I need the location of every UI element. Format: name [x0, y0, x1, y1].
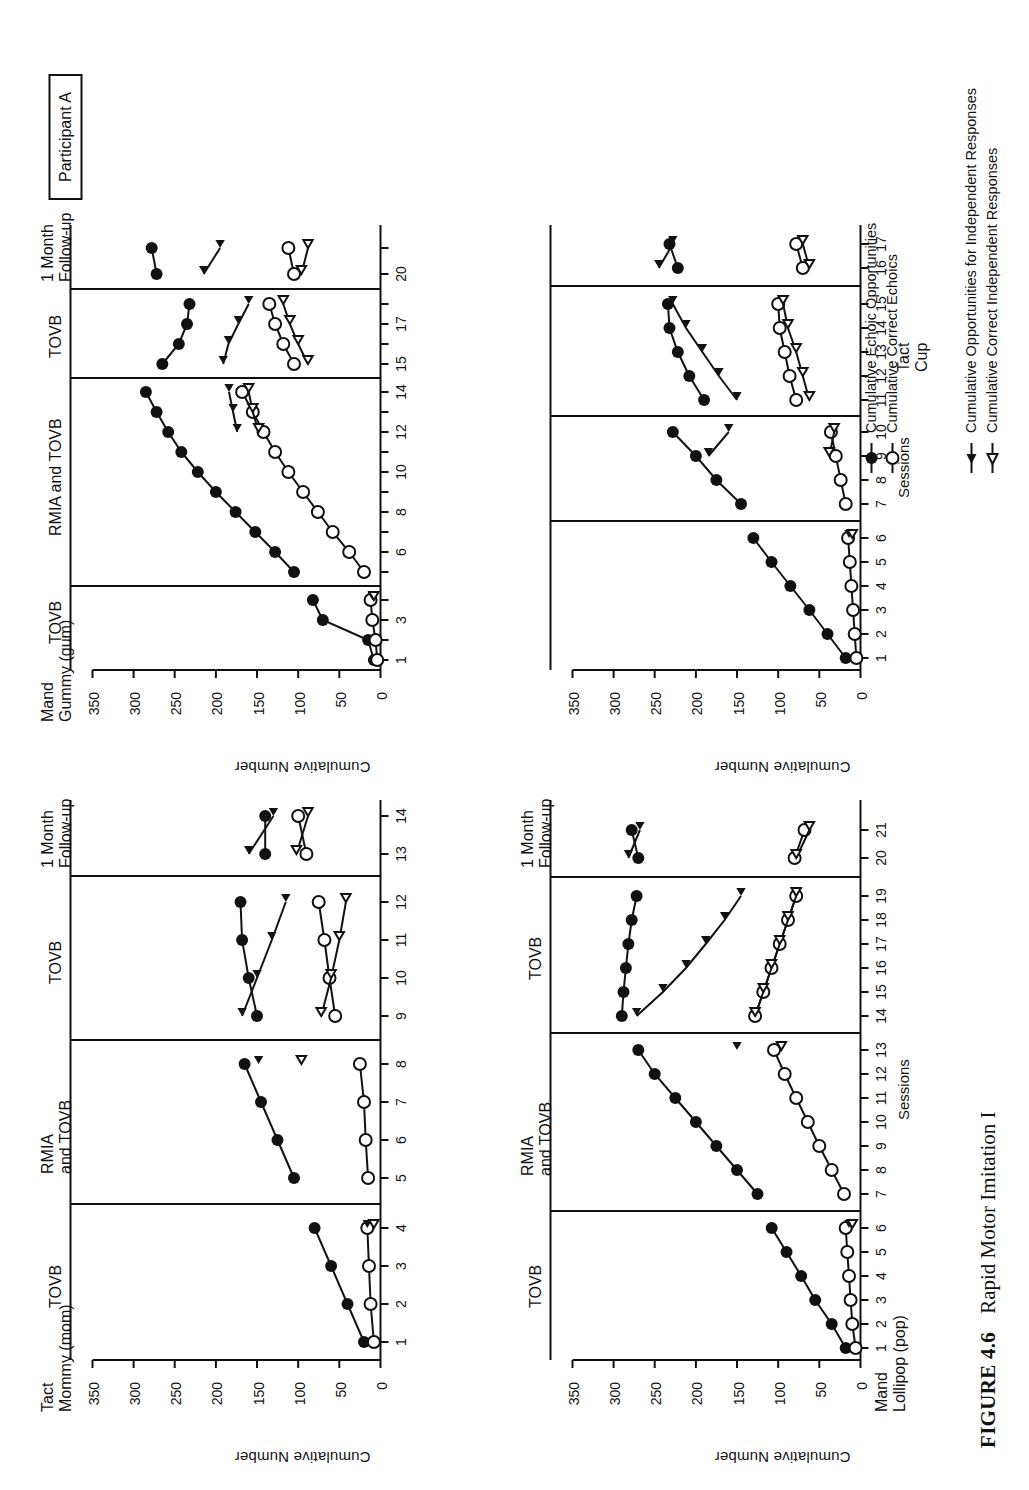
- y-tick-200: 200: [208, 1382, 224, 1428]
- y-tick-250: 250: [167, 1382, 183, 1428]
- phase-label-line1: 1 Month: [38, 213, 56, 282]
- x-tick: 1: [392, 650, 408, 670]
- panel-mand-lollipop: Mand Lollipop (pop) Cumulative Number: [520, 780, 940, 1420]
- panel-tact-mommy: Tact Mommy (mom) Cumulative Number: [40, 780, 440, 1420]
- figure-page: FIGURE 4.6Rapid Motor Imitation I Partic…: [0, 0, 1029, 1490]
- x-tick: 4: [392, 1216, 408, 1240]
- phase-label-tovb-1: TOVB: [526, 1265, 544, 1308]
- x-tick: 4: [872, 1266, 888, 1286]
- legend-item-independent-opportunities: Cumulative Opportunities for Independent…: [960, 88, 981, 475]
- x-tick: 20: [872, 846, 888, 870]
- x-tick: 14: [872, 1004, 888, 1028]
- y-tick-0: 0: [373, 1382, 389, 1428]
- y-tick-200: 200: [688, 692, 704, 738]
- phase-label-line1: RMIA: [518, 1102, 536, 1176]
- x-tick: 1: [872, 648, 888, 668]
- y-tick-100: 100: [771, 692, 787, 738]
- y-tick-250: 250: [167, 692, 183, 738]
- x-tick: 10: [392, 964, 408, 992]
- legend-echoic: Cumulative Echoic Opportunities Cumulati…: [860, 223, 902, 475]
- x-tick: 9: [872, 1136, 888, 1156]
- y-tick-250: 250: [647, 1382, 663, 1428]
- phase-label-tovb-1: TOVB: [46, 1265, 64, 1308]
- x-tick: 3: [392, 610, 408, 630]
- x-tick: 17: [872, 932, 888, 956]
- y-axis-label-mand-gummy: Cumulative Number: [234, 759, 370, 776]
- phase-label-line1: 1 Month: [38, 799, 56, 868]
- x-tick: 6: [872, 1218, 888, 1238]
- legend-label: Cumulative Correct Independent Responses: [981, 148, 1003, 433]
- plot-area-tact-mommy: [40, 780, 440, 1420]
- x-tick: 11: [392, 926, 408, 954]
- plot-area-mand-gummy: [40, 210, 440, 730]
- x-tick: 1: [872, 1338, 888, 1358]
- x-tick: 6: [392, 1128, 408, 1152]
- y-tick-150: 150: [730, 692, 746, 738]
- x-tick: 6: [392, 542, 408, 562]
- figure-caption-title: Rapid Motor Imitation I: [975, 1111, 999, 1313]
- phase-label-rmia-tovb: RMIA and TOVB: [38, 1100, 74, 1174]
- y-tick-350: 350: [85, 692, 101, 738]
- phase-label-line2: Follow-up: [536, 799, 554, 868]
- x-tick: 7: [872, 1184, 888, 1204]
- x-tick: 12: [872, 1062, 888, 1086]
- y-tick-100: 100: [291, 1382, 307, 1428]
- phase-label-tovb-2: TOVB: [526, 937, 544, 980]
- x-tick: 20: [392, 260, 408, 288]
- plot-area-mand-lollipop: [520, 780, 920, 1420]
- x-tick: 8: [872, 1160, 888, 1180]
- y-tick-50: 50: [812, 692, 828, 738]
- x-tick: 12: [392, 418, 408, 446]
- legend-item-correct-echoics: Cumulative Correct Echoics: [881, 223, 902, 475]
- legend-item-correct-independent: Cumulative Correct Independent Responses: [981, 88, 1002, 475]
- y-tick-50: 50: [332, 692, 348, 738]
- legend-label: Cumulative Echoic Opportunities: [860, 223, 882, 433]
- y-tick-100: 100: [291, 692, 307, 738]
- y-tick-200: 200: [208, 692, 224, 738]
- x-tick: 3: [872, 600, 888, 620]
- y-tick-250: 250: [647, 692, 663, 738]
- figure-caption-label: FIGURE 4.6: [975, 1332, 999, 1448]
- x-tick: 15: [392, 350, 408, 378]
- legend-label: Cumulative Opportunities for Independent…: [960, 88, 982, 433]
- x-tick: 12: [392, 888, 408, 916]
- y-axis-label-tact-cup: Cumulative Number: [714, 759, 850, 776]
- y-tick-150: 150: [730, 1382, 746, 1428]
- x-tick: 13: [872, 1038, 888, 1062]
- phase-label-rmia-tovb: RMIA and TOVB: [46, 418, 64, 536]
- y-tick-300: 300: [606, 692, 622, 738]
- phase-label-followup: 1 Month Follow-up: [38, 799, 74, 868]
- phase-label-followup: 1 Month Follow-up: [518, 799, 554, 868]
- legend-item-echoic-opportunities: Cumulative Echoic Opportunities: [860, 223, 881, 475]
- x-tick: 7: [392, 1090, 408, 1114]
- y-tick-200: 200: [688, 1382, 704, 1428]
- phase-label-line2: and TOVB: [536, 1102, 554, 1176]
- x-tick: 2: [872, 624, 888, 644]
- x-tick: 14: [392, 802, 408, 830]
- x-tick: 4: [872, 576, 888, 596]
- y-tick-0: 0: [373, 692, 389, 738]
- phase-label-rmia-tovb: RMIA and TOVB: [518, 1102, 554, 1176]
- closed-triangle-marker-icon: [962, 441, 980, 475]
- y-tick-150: 150: [250, 1382, 266, 1428]
- x-tick: 15: [872, 980, 888, 1004]
- x-tick: 8: [392, 502, 408, 522]
- x-tick: 8: [392, 1052, 408, 1076]
- legend-independent: Cumulative Opportunities for Independent…: [960, 88, 1002, 475]
- closed-circle-marker-icon: [862, 441, 880, 475]
- y-tick-50: 50: [812, 1382, 828, 1428]
- x-tick: 5: [392, 1166, 408, 1190]
- y-tick-350: 350: [85, 1382, 101, 1428]
- x-tick: 10: [392, 458, 408, 486]
- y-tick-0: 0: [853, 692, 869, 738]
- y-axis-label-mand-lollipop: Cumulative Number: [714, 1449, 850, 1466]
- y-tick-300: 300: [126, 692, 142, 738]
- phase-label-followup: 1 Month Follow-up: [38, 213, 74, 282]
- x-tick: 21: [872, 818, 888, 842]
- y-tick-150: 150: [250, 692, 266, 738]
- x-tick: 9: [392, 1004, 408, 1028]
- phase-label-line1: RMIA: [38, 1100, 56, 1174]
- figure-caption: FIGURE 4.6Rapid Motor Imitation I: [975, 1111, 1000, 1448]
- x-tick: 5: [872, 552, 888, 572]
- x-tick: 3: [872, 1290, 888, 1310]
